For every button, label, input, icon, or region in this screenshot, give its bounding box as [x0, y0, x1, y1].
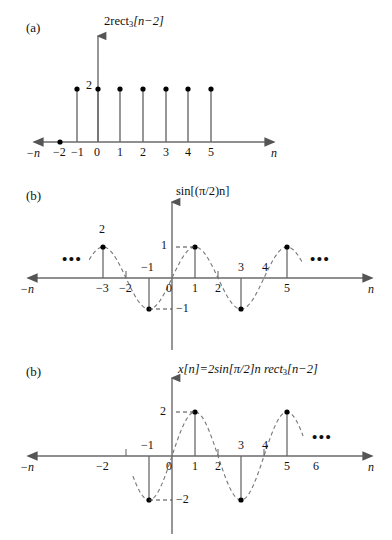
- panel-b2-tick--2: −2: [96, 459, 109, 474]
- panel-a-zero-dot: [57, 139, 62, 144]
- panel-b1-tick-3: 3: [238, 260, 244, 275]
- panel-b1-tick-0: 0: [166, 281, 172, 296]
- panel-b2-ellipsis-right: •••: [312, 430, 332, 445]
- panel-b1-tick-5: 5: [284, 281, 290, 296]
- panel-a-tick-4: 4: [185, 145, 191, 160]
- panel-b2: (b) x[n]=2sin[π/2]n rect3[n−2]: [0, 358, 392, 540]
- panel-b2-tick-1: 1: [192, 459, 198, 474]
- panel-b2-tick--1: −1: [141, 438, 154, 453]
- panel-b1-stray-label-2: 2: [99, 222, 105, 237]
- panel-b1-tick--2: −2: [119, 281, 132, 296]
- panel-a-tick-0: 0: [94, 145, 100, 160]
- panel-b2-tick-5: 5: [284, 459, 290, 474]
- panel-b1-tick--3: −3: [96, 281, 109, 296]
- panel-a: (a) 2rect3[n−2]: [0, 0, 392, 180]
- panel-b1-tick-2: 2: [215, 281, 221, 296]
- panel-b1-value--1: −1: [176, 301, 189, 316]
- panel-a-axis-right-label: n: [271, 146, 277, 161]
- panel-b1-value-1: 1: [161, 238, 167, 253]
- panel-b2-tick-6: 6: [313, 459, 319, 474]
- panel-b1-tick-1: 1: [192, 281, 198, 296]
- panel-a-tick--1: −1: [71, 145, 84, 160]
- panel-b1-tick--1: −1: [141, 260, 154, 275]
- panel-a-axis-left-label: −n: [26, 146, 40, 161]
- panel-b2-plot: [0, 358, 392, 540]
- panel-b1-tick-4: 4: [262, 260, 268, 275]
- panel-a-tick-2: 2: [140, 145, 146, 160]
- panel-a-tick-5: 5: [208, 145, 214, 160]
- panel-a-stems: [77, 89, 211, 142]
- panel-b2-axis-left-label: −n: [20, 460, 34, 475]
- panel-b2-tick-0: 0: [166, 459, 172, 474]
- panel-b1-axis-right-label: n: [368, 282, 374, 297]
- panel-a-sample-dots: [57, 86, 213, 144]
- panel-b1-ellipsis-left: •••: [62, 252, 82, 267]
- panel-b1-ellipsis-right: •••: [310, 252, 330, 267]
- panel-a-tick-3: 3: [163, 145, 169, 160]
- panel-b1-axis-left-label: −n: [20, 282, 34, 297]
- panel-b1-plot: [0, 180, 392, 358]
- panel-b2-tick-3: 3: [238, 438, 244, 453]
- panel-a-tick--2: −2: [53, 145, 66, 160]
- panel-b1: (b) sin[(π/2)n]: [0, 180, 392, 358]
- panel-a-value-2: 2: [86, 78, 92, 93]
- panel-b2-tick-4: 4: [262, 438, 268, 453]
- panel-b2-tick-2: 2: [215, 459, 221, 474]
- panel-b2-axis-right-label: n: [368, 460, 374, 475]
- panel-b2-value--2: −2: [176, 492, 189, 507]
- panel-b2-value-2: 2: [160, 404, 166, 419]
- panel-a-tick-1: 1: [117, 145, 123, 160]
